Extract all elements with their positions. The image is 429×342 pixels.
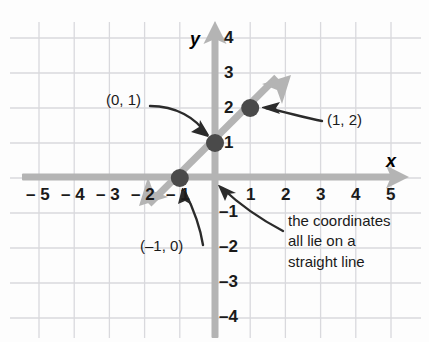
y-tick-label-3: 3 [224,64,233,81]
note-straight-line: the coordinates all lie on a straight li… [288,211,391,272]
y-tick-label-minus4: –4 [219,308,238,325]
point-label-minus1-0: (–1, 0) [140,238,183,253]
x-tick-label-2: 2 [281,186,290,203]
x-tick-label-minus3: – 3 [96,186,120,203]
x-tick-label-5: 5 [386,186,395,203]
y-tick-label-minus3: –3 [219,273,238,290]
y-tick-label-1: 1 [224,134,233,151]
note-line-3: straight line [288,252,391,272]
y-axis-name: y [190,30,200,48]
x-tick-label-minus5: – 5 [26,186,50,203]
callout-arrow-0-1-head [191,120,209,137]
note-line-2: all lie on a [288,231,391,251]
y-tick-label-2: 2 [224,99,233,116]
data-point-0-1 [206,134,224,152]
y-tick-label-4: 4 [224,29,233,46]
x-tick-label-3: 3 [316,186,325,203]
x-tick-label-1: 1 [246,186,255,203]
x-tick-label-minus2: – 2 [131,186,155,203]
data-point-1-2 [241,99,259,117]
x-tick-label-minus1: – 1 [166,186,190,203]
y-tick-label-minus2: –2 [219,238,238,255]
point-label-1-2: (1, 2) [327,112,362,127]
note-line-1: the coordinates [288,211,391,231]
y-axis-line [212,30,219,338]
axes [22,21,409,338]
point-label-0-1: (0, 1) [106,92,141,107]
y-tick-label-minus1: –1 [219,203,238,220]
x-tick-label-4: 4 [351,186,360,203]
graph-canvas [0,0,429,342]
x-axis-name: x [386,152,396,170]
x-axis-line [22,174,392,181]
x-tick-label-minus4: – 4 [61,186,85,203]
coordinate-plane-figure: 4 3 2 1 –1 –2 –3 –4 – 5 – 4 – 3 – 2 – 1 … [0,0,429,342]
